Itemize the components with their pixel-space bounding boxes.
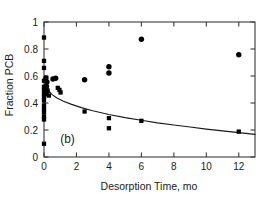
- data-point-square: [139, 119, 143, 123]
- x-tick-label: 8: [171, 161, 177, 172]
- data-point-circle: [82, 77, 87, 82]
- data-point-square: [42, 59, 46, 63]
- y-tick-label: 0.8: [24, 44, 38, 55]
- data-point-square: [58, 90, 62, 94]
- data-point-circle: [139, 37, 144, 42]
- x-tick-label: 2: [74, 161, 80, 172]
- data-point-square: [42, 35, 46, 39]
- figure-panel: 024681012 00.20.40.60.81 (b) Desorption …: [0, 0, 268, 198]
- scatter-plot: 024681012 00.20.40.60.81 (b) Desorption …: [0, 0, 268, 198]
- data-point-circle: [53, 76, 58, 81]
- x-tick-label: 6: [139, 161, 145, 172]
- y-tick-label: 0: [32, 152, 38, 163]
- panel-label: (b): [60, 132, 75, 146]
- x-axis-title: Desorption Time, mo: [101, 180, 198, 192]
- x-tick-label: 4: [106, 161, 112, 172]
- y-axis-title: Fraction PCB: [3, 54, 15, 116]
- data-point-square: [42, 110, 46, 114]
- x-tick-label: 12: [233, 161, 245, 172]
- data-point-square: [82, 109, 86, 113]
- data-point-circle: [43, 91, 48, 96]
- data-point-square: [42, 142, 46, 146]
- figure-background: [0, 0, 268, 198]
- data-point-square: [107, 126, 111, 130]
- data-point-square: [42, 98, 46, 102]
- data-point-circle: [106, 64, 111, 69]
- y-tick-label: 0.4: [24, 98, 38, 109]
- x-tick-label: 10: [201, 161, 213, 172]
- y-tick-label: 0.6: [24, 71, 38, 82]
- data-point-square: [42, 117, 46, 121]
- data-point-circle: [236, 52, 241, 57]
- data-point-square: [107, 116, 111, 120]
- data-point-square: [42, 66, 46, 70]
- y-tick-label: 1: [32, 17, 38, 28]
- panel-annotation: (b): [60, 132, 75, 146]
- data-point-square: [237, 129, 241, 133]
- x-tick-label: 0: [41, 161, 47, 172]
- data-point-circle: [106, 70, 111, 75]
- y-tick-label: 0.2: [24, 125, 38, 136]
